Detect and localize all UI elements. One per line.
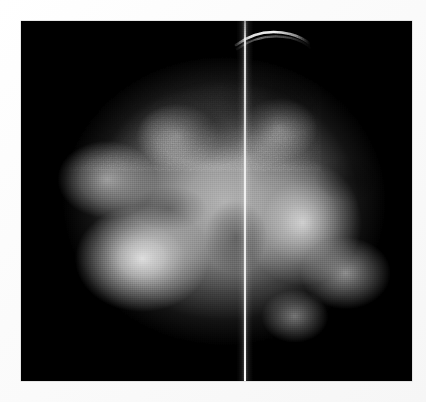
screenshot-canvas: Grayscale mammogram showing a rounded br… bbox=[0, 0, 426, 402]
fatty-tissue-regions bbox=[21, 21, 412, 381]
tissue-silhouette-corner-mask bbox=[21, 21, 412, 381]
detector-scanline-texture bbox=[21, 21, 412, 381]
vertical-midline-artifact bbox=[244, 21, 246, 381]
film-grid-texture bbox=[21, 21, 412, 381]
radiograph-film-frame bbox=[21, 21, 412, 381]
dense-fibroglandular-right bbox=[21, 21, 412, 381]
breast-tissue-base-layer bbox=[21, 21, 412, 381]
dense-fibroglandular-left bbox=[21, 21, 412, 381]
